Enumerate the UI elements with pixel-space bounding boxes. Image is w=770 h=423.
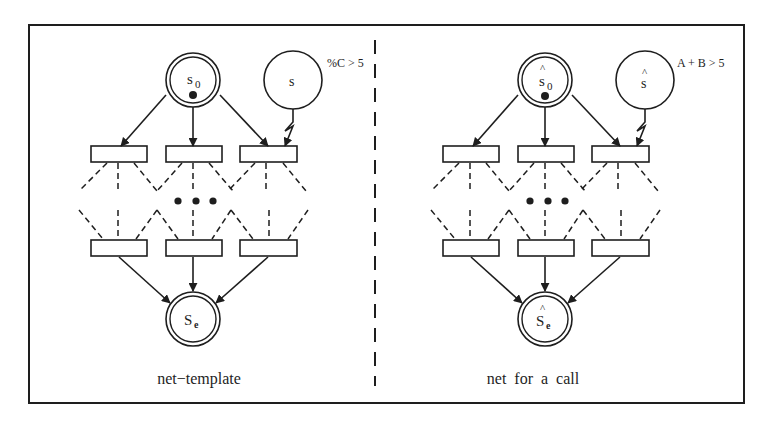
ellipsis-dot <box>174 197 181 204</box>
transition <box>592 146 649 162</box>
transition <box>240 240 297 256</box>
place-subscript: e <box>194 319 199 330</box>
token-icon <box>189 91 197 99</box>
place-subscript: e <box>546 320 551 331</box>
place-label: s <box>289 74 294 89</box>
place-label: s <box>539 73 545 89</box>
transition <box>91 146 147 162</box>
panel-caption: net for a call <box>487 370 580 387</box>
panel-caption: net−template <box>157 370 241 388</box>
dashed-arcs-top <box>79 163 306 191</box>
token-icon <box>541 92 549 100</box>
place-label: S <box>536 313 544 329</box>
end-place: S e <box>166 292 220 346</box>
transition <box>166 240 222 256</box>
end-place: ^ S e <box>518 292 572 346</box>
place-label: S <box>184 312 192 328</box>
lightning-arc <box>637 109 645 146</box>
transition <box>518 146 574 162</box>
side-place: ^ s <box>616 51 674 109</box>
figure-frame <box>29 25 744 403</box>
start-place: ^ s 0 <box>518 53 572 107</box>
dashed-arcs-bottom <box>79 210 308 239</box>
place-label: s <box>641 76 646 91</box>
start-place: s 0 <box>166 53 220 107</box>
transition <box>240 146 297 162</box>
transition <box>443 240 499 256</box>
ellipsis-dot <box>192 197 199 204</box>
place-subscript: 0 <box>195 78 201 90</box>
dashed-arcs-bottom <box>431 210 660 239</box>
panel-net-template: s 0 s %C > 5 <box>79 51 364 388</box>
transition <box>592 240 649 256</box>
place-label: s <box>187 71 193 87</box>
transition <box>443 146 499 162</box>
side-place: s <box>264 51 322 109</box>
panel-net-for-a-call: ^ s 0 ^ s A + B > 5 <box>431 51 725 387</box>
ellipsis-dot <box>209 197 216 204</box>
transition <box>166 146 222 162</box>
petri-net-figure: s 0 s %C > 5 <box>0 0 770 423</box>
transition <box>91 240 147 256</box>
guard-condition: A + B > 5 <box>677 56 725 70</box>
guard-condition: %C > 5 <box>327 56 364 70</box>
place-subscript: 0 <box>547 80 553 92</box>
dashed-arcs-top <box>431 163 658 191</box>
transition <box>518 240 574 256</box>
ellipsis-dot <box>544 197 551 204</box>
ellipsis-dot <box>526 197 533 204</box>
ellipsis-dot <box>561 197 568 204</box>
lightning-arc <box>285 109 293 146</box>
